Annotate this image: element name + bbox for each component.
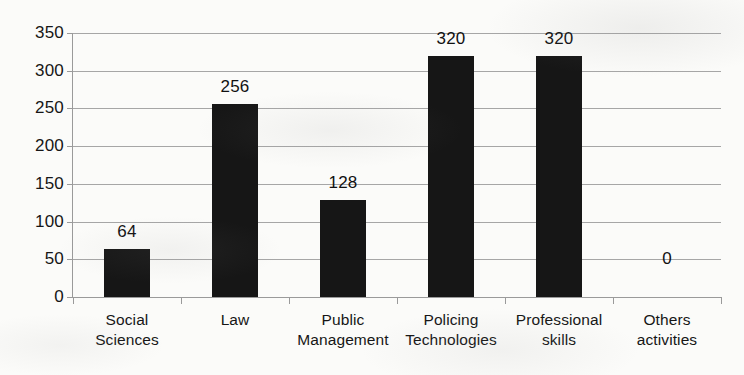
gridline-250 [73, 108, 721, 109]
x-category-label-3: PolicingTechnologies [397, 310, 505, 350]
x-cat-label-line2-4: skills [505, 330, 613, 350]
y-tick-label-100: 100 [18, 213, 64, 230]
bar-2 [320, 200, 366, 297]
gridline-300 [73, 71, 721, 72]
y-tick-label-50: 50 [18, 250, 64, 267]
y-tick-mark-200 [67, 146, 73, 147]
bar-3 [428, 56, 474, 297]
bar-value-label-5: 0 [617, 250, 717, 267]
bar-value-label-1: 256 [185, 78, 285, 95]
x-tick-mark-4 [505, 297, 506, 304]
x-tick-mark-1 [181, 297, 182, 304]
x-category-label-1: Law [181, 310, 289, 330]
y-tick-label-350: 350 [18, 24, 64, 41]
bar-value-label-4: 320 [509, 30, 609, 47]
bar-4 [536, 56, 582, 297]
x-cat-label-line2-2: Management [289, 330, 397, 350]
y-tick-label-200: 200 [18, 137, 64, 154]
x-category-label-2: PublicManagement [289, 310, 397, 350]
x-tick-mark-2 [289, 297, 290, 304]
x-cat-label-line1-4: Professional [505, 310, 613, 330]
x-category-label-5: Othersactivities [613, 310, 721, 350]
bar-chart: 050100150200250300350 642561283203200 So… [0, 0, 744, 375]
x-cat-label-line1-2: Public [289, 310, 397, 330]
x-tick-mark-3 [397, 297, 398, 304]
gridline-150 [73, 184, 721, 185]
gridline-350 [73, 33, 721, 34]
y-tick-label-150: 150 [18, 175, 64, 192]
x-cat-label-line1-3: Policing [397, 310, 505, 330]
x-category-label-4: Professionalskills [505, 310, 613, 350]
bar-value-label-3: 320 [401, 30, 501, 47]
bar-value-label-2: 128 [293, 174, 393, 191]
y-tick-mark-350 [67, 33, 73, 34]
bar-0 [104, 249, 150, 297]
y-axis-tick-labels: 050100150200250300350 [8, 0, 64, 375]
x-cat-label-line1-1: Law [181, 310, 289, 330]
y-tick-label-300: 300 [18, 62, 64, 79]
x-cat-label-line1-0: Social [73, 310, 181, 330]
x-cat-label-line2-3: Technologies [397, 330, 505, 350]
y-tick-mark-50 [67, 259, 73, 260]
y-tick-mark-100 [67, 222, 73, 223]
x-tick-mark-5 [613, 297, 614, 304]
y-tick-label-0: 0 [18, 288, 64, 305]
y-tick-mark-300 [67, 71, 73, 72]
bar-value-label-0: 64 [77, 223, 177, 240]
x-cat-label-line2-5: activities [613, 330, 721, 350]
x-category-label-0: SocialSciences [73, 310, 181, 350]
gridline-200 [73, 146, 721, 147]
x-cat-label-line2-0: Sciences [73, 330, 181, 350]
y-tick-mark-150 [67, 184, 73, 185]
x-tick-mark-0 [73, 297, 74, 304]
x-cat-label-line1-5: Others [613, 310, 721, 330]
y-tick-label-250: 250 [18, 99, 64, 116]
bar-1 [212, 104, 258, 297]
x-tick-mark-6 [721, 297, 722, 304]
y-tick-mark-250 [67, 108, 73, 109]
